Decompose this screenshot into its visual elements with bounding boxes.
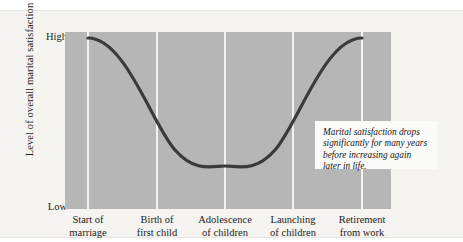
marital-satisfaction-chart-figure: High Low Level of overall marital satisf… [0,0,463,242]
x-tick-line-1: Retirement [319,214,405,227]
y-axis-title: Level of overall marital satisfaction [24,0,35,175]
x-axis-tick-retirement-from-work: Retirement from work [319,214,405,239]
y-axis-tick-high: High [46,31,67,42]
figure-panel: High Low Level of overall marital satisf… [0,10,463,238]
annotation-callout: Marital satisfaction drops significantly… [315,121,437,169]
x-tick-line-2: from work [319,227,405,240]
